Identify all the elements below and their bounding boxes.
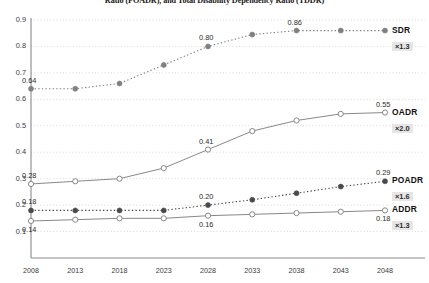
data-point-addr-2008 (28, 218, 33, 223)
data-point-addr-2028 (205, 213, 210, 218)
data-point-oadr-2043 (338, 111, 343, 116)
legend-multiplier-poadr: ×1.6 (392, 192, 413, 201)
y-tick-0.6: 0.6 (0, 94, 26, 103)
point-label-sdr-2038: 0.86 (288, 18, 302, 27)
point-label-oadr-2028: 0.41 (199, 137, 213, 146)
legend-item-addr[interactable]: ADDR×1.3 (392, 204, 429, 232)
legend-label-sdr: SDR (392, 25, 429, 35)
data-point-sdr-2043 (338, 28, 343, 33)
legend-label-addr: ADDR (392, 204, 429, 214)
data-point-oadr-2013 (73, 179, 78, 184)
x-tick-2033: 2033 (235, 266, 269, 275)
data-point-addr-2023 (161, 216, 166, 221)
data-point-sdr-2008 (29, 86, 34, 91)
data-point-addr-2018 (117, 216, 122, 221)
data-point-oadr-2033 (250, 128, 255, 133)
data-point-poadr-2033 (250, 197, 255, 202)
data-point-poadr-2048 (383, 179, 388, 184)
legend-multiplier-oadr: ×2.0 (392, 124, 413, 133)
x-tick-2048: 2048 (368, 266, 402, 275)
data-point-poadr-2028 (206, 203, 211, 208)
data-point-poadr-2043 (338, 184, 343, 189)
chart-container: Ratio (POADR), and Total Disability Depe… (0, 0, 429, 283)
plot-area (0, 0, 429, 283)
data-point-sdr-2028 (206, 44, 211, 49)
data-point-sdr-2033 (250, 32, 255, 37)
legend-item-poadr[interactable]: POADR×1.6 (392, 175, 429, 203)
y-tick-0.8: 0.8 (0, 41, 26, 50)
point-label-poadr-2048: 0.29 (376, 168, 390, 177)
y-tick-0.9: 0.9 (0, 15, 26, 24)
data-point-addr-2048 (382, 208, 387, 213)
legend-label-oadr: OADR (392, 107, 429, 117)
y-tick-0.4: 0.4 (0, 147, 26, 156)
point-label-poadr-2008: 0.18 (22, 197, 36, 206)
data-point-addr-2013 (73, 217, 78, 222)
point-label-addr-2028: 0.16 (199, 220, 213, 229)
y-tick-0.5: 0.5 (0, 121, 26, 130)
data-point-sdr-2038 (294, 28, 299, 33)
x-tick-2018: 2018 (103, 266, 137, 275)
data-point-oadr-2038 (294, 118, 299, 123)
data-point-addr-2043 (338, 209, 343, 214)
data-point-sdr-2013 (73, 86, 78, 91)
data-point-oadr-2008 (28, 181, 33, 186)
data-point-poadr-2008 (29, 208, 34, 213)
point-label-poadr-2028: 0.20 (199, 192, 213, 201)
legend-label-poadr: POADR (392, 175, 429, 185)
point-label-addr-2008: 0.14 (22, 225, 36, 234)
data-point-sdr-2018 (117, 81, 122, 86)
data-point-oadr-2048 (382, 110, 387, 115)
x-tick-2008: 2008 (14, 266, 48, 275)
legend-item-oadr[interactable]: OADR×2.0 (392, 107, 429, 135)
data-point-poadr-2018 (117, 208, 122, 213)
legend-item-sdr[interactable]: SDR×1.3 (392, 25, 429, 53)
x-tick-2043: 2043 (324, 266, 358, 275)
data-point-oadr-2018 (117, 176, 122, 181)
data-point-addr-2038 (294, 210, 299, 215)
data-point-poadr-2023 (161, 208, 166, 213)
x-tick-2013: 2013 (58, 266, 92, 275)
x-tick-2023: 2023 (147, 266, 181, 275)
data-point-oadr-2023 (161, 165, 166, 170)
point-label-oadr-2008: 0.28 (22, 171, 36, 180)
data-point-sdr-2048 (383, 28, 388, 33)
data-point-oadr-2028 (205, 147, 210, 152)
legend-multiplier-addr: ×1.3 (392, 221, 413, 230)
data-point-poadr-2013 (73, 208, 78, 213)
point-label-oadr-2048: 0.55 (376, 100, 390, 109)
data-point-sdr-2023 (161, 62, 166, 67)
x-tick-2038: 2038 (280, 266, 314, 275)
data-point-poadr-2038 (294, 191, 299, 196)
point-label-sdr-2028: 0.80 (199, 33, 213, 42)
point-label-sdr-2008: 0.64 (22, 76, 36, 85)
point-label-addr-2048: 0.18 (376, 214, 390, 223)
data-point-addr-2033 (250, 212, 255, 217)
legend-multiplier-sdr: ×1.3 (392, 42, 413, 51)
x-tick-2028: 2028 (191, 266, 225, 275)
